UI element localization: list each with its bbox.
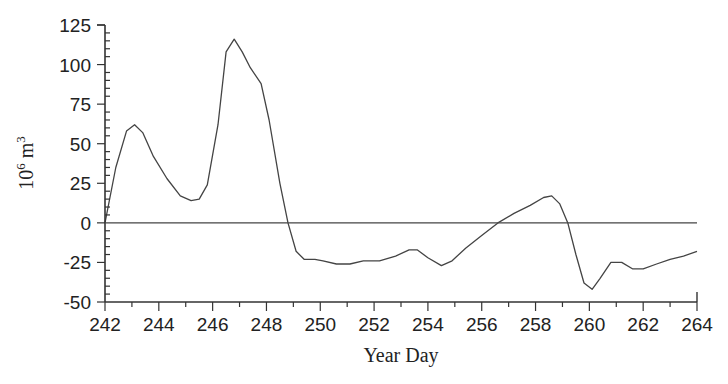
y-tick-label: 125	[59, 15, 91, 36]
x-tick-label: 260	[574, 314, 606, 335]
x-tick-label: 244	[143, 314, 175, 335]
x-tick-label: 258	[520, 314, 552, 335]
x-axis-label: Year Day	[363, 344, 438, 367]
y-axis-ticks: 1251007550250-25-50	[59, 15, 110, 313]
y-tick-label: 100	[59, 55, 91, 76]
x-tick-label: 252	[358, 314, 390, 335]
y-tick-label: 0	[80, 213, 91, 234]
x-tick-label: 254	[412, 314, 444, 335]
y-tick-label: -25	[64, 252, 91, 273]
line-chart: 1251007550250-25-50 24224424624825025225…	[0, 0, 728, 384]
x-tick-label: 262	[627, 314, 659, 335]
axes	[97, 25, 697, 302]
x-tick-label: 242	[89, 314, 121, 335]
y-tick-label: 50	[70, 134, 91, 155]
y-tick-label: 25	[70, 173, 91, 194]
y-axis-label: 106 m3	[13, 136, 37, 190]
x-tick-label: 256	[466, 314, 498, 335]
x-tick-label: 250	[304, 314, 336, 335]
x-tick-label: 248	[251, 314, 283, 335]
y-tick-label: 75	[70, 94, 91, 115]
x-tick-label: 246	[197, 314, 229, 335]
y-tick-label: -50	[64, 292, 91, 313]
data-series-line	[105, 39, 697, 289]
plot-area	[105, 39, 697, 289]
x-tick-label: 264	[681, 314, 713, 335]
x-axis-ticks: 242244246248250252254256258260262264	[89, 302, 713, 335]
